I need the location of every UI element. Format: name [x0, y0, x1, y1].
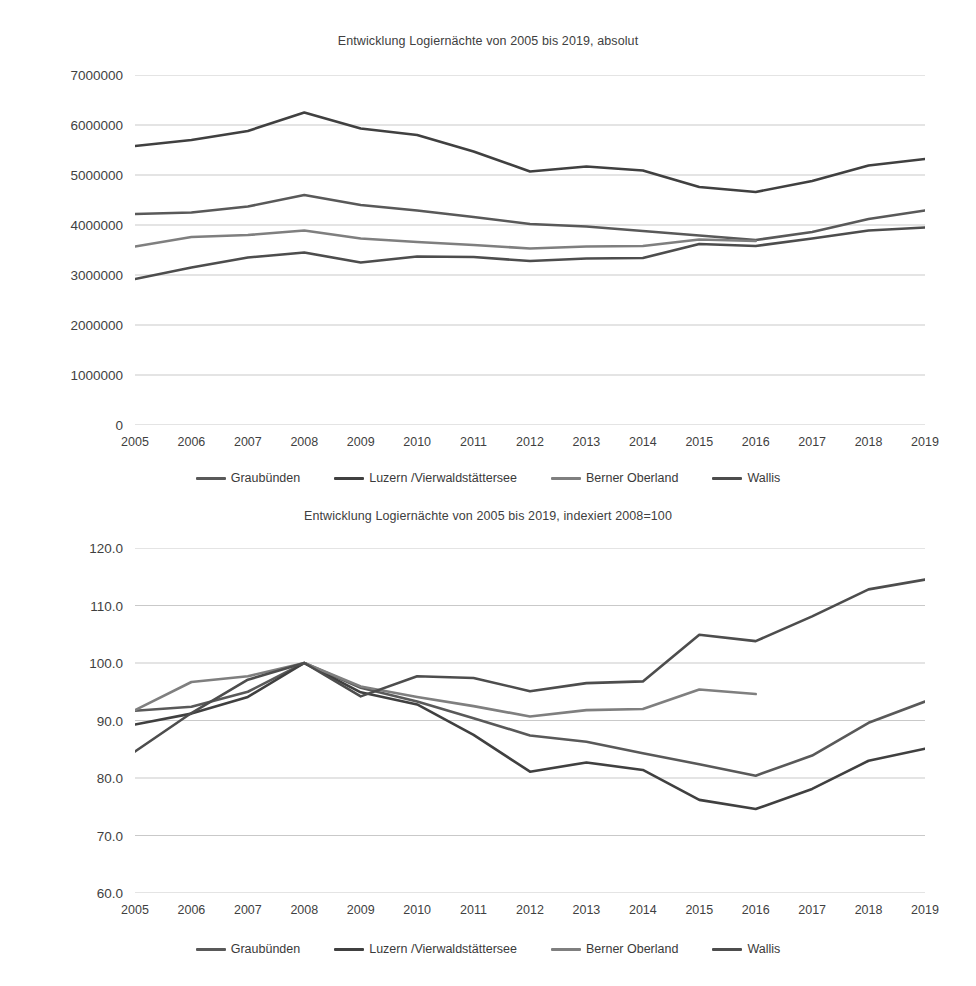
x-tick-label: 2018 [855, 903, 883, 917]
y-tick-label: 110.0 [90, 598, 123, 613]
legend-item[interactable]: Berner Oberland [551, 942, 678, 956]
legend-label: Wallis [747, 942, 780, 956]
x-tick-label: 2011 [460, 903, 487, 917]
legend-label: Berner Oberland [586, 471, 678, 485]
x-tick-label: 2008 [290, 903, 318, 917]
legend-label: Wallis [747, 471, 780, 485]
series-line [135, 113, 925, 193]
y-tick-label: 7000000 [70, 68, 123, 83]
legend-line-icon [551, 477, 581, 480]
x-tick-label: 2019 [911, 903, 939, 917]
plot-area-absolute [135, 75, 925, 425]
x-tick-label: 2017 [798, 903, 826, 917]
chart-indexed: Entwicklung Logiernächte von 2005 bis 20… [0, 497, 976, 986]
chart-title-indexed: Entwicklung Logiernächte von 2005 bis 20… [0, 509, 976, 523]
legend-item[interactable]: Berner Oberland [551, 471, 678, 485]
x-tick-label: 2010 [403, 903, 431, 917]
chart-svg [135, 548, 925, 893]
x-tick-label: 2006 [178, 435, 206, 449]
y-tick-label: 120.0 [89, 541, 123, 556]
y-tick-label: 90.0 [97, 713, 123, 728]
y-tick-label: 100.0 [89, 656, 123, 671]
x-tick-label: 2012 [516, 903, 544, 917]
x-tick-label: 2010 [403, 435, 431, 449]
legend-line-icon [196, 477, 226, 480]
x-tick-label: 2014 [629, 435, 657, 449]
legend-label: Graubünden [231, 942, 301, 956]
chart-absolute: Entwicklung Logiernächte von 2005 bis 20… [0, 0, 976, 497]
y-tick-label: 1000000 [70, 368, 123, 383]
y-tick-label: 2000000 [70, 318, 123, 333]
legend-line-icon [712, 948, 742, 951]
x-tick-label: 2005 [121, 435, 149, 449]
legend-line-icon [334, 948, 364, 951]
chart-svg [135, 75, 925, 425]
legend-label: Luzern /Vierwaldstättersee [369, 942, 517, 956]
series-line [135, 663, 756, 716]
y-tick-label: 3000000 [70, 268, 123, 283]
x-tick-label: 2005 [121, 903, 149, 917]
x-tick-label: 2011 [460, 435, 487, 449]
x-tick-label: 2019 [911, 435, 939, 449]
x-tick-label: 2016 [742, 435, 770, 449]
x-tick-label: 2016 [742, 903, 770, 917]
legend-label: Berner Oberland [586, 942, 678, 956]
legend-line-icon [196, 948, 226, 951]
legend-label: Graubünden [231, 471, 301, 485]
x-tick-label: 2009 [347, 435, 375, 449]
y-tick-label: 0 [115, 418, 123, 433]
legend-line-icon [334, 477, 364, 480]
y-tick-label: 60.0 [97, 886, 123, 901]
x-tick-label: 2015 [685, 435, 713, 449]
legend-item[interactable]: Graubünden [196, 471, 301, 485]
chart-title-absolute: Entwicklung Logiernächte von 2005 bis 20… [0, 34, 976, 48]
legend-line-icon [712, 477, 742, 480]
legend-item[interactable]: Graubünden [196, 942, 301, 956]
legend-indexed: GraubündenLuzern /VierwaldstätterseeBern… [0, 937, 976, 961]
y-tick-label: 4000000 [70, 218, 123, 233]
plot-area-indexed [135, 548, 925, 893]
x-tick-label: 2012 [516, 435, 544, 449]
x-tick-label: 2013 [573, 903, 601, 917]
x-tick-label: 2007 [234, 435, 262, 449]
x-tick-label: 2017 [798, 435, 826, 449]
x-tick-label: 2014 [629, 903, 657, 917]
legend-item[interactable]: Wallis [712, 942, 780, 956]
x-tick-label: 2006 [178, 903, 206, 917]
series-line [135, 663, 925, 776]
y-tick-label: 70.0 [97, 828, 123, 843]
legend-line-icon [551, 948, 581, 951]
y-tick-label: 5000000 [70, 168, 123, 183]
x-tick-label: 2018 [855, 435, 883, 449]
legend-item[interactable]: Wallis [712, 471, 780, 485]
legend-label: Luzern /Vierwaldstättersee [369, 471, 517, 485]
x-tick-label: 2008 [290, 435, 318, 449]
legend-item[interactable]: Luzern /Vierwaldstättersee [334, 942, 517, 956]
x-tick-label: 2013 [573, 435, 601, 449]
x-tick-label: 2009 [347, 903, 375, 917]
y-tick-label: 6000000 [70, 118, 123, 133]
y-tick-label: 80.0 [97, 771, 123, 786]
x-tick-label: 2007 [234, 903, 262, 917]
legend-absolute: GraubündenLuzern /VierwaldstätterseeBern… [0, 466, 976, 490]
legend-item[interactable]: Luzern /Vierwaldstättersee [334, 471, 517, 485]
x-tick-label: 2015 [685, 903, 713, 917]
